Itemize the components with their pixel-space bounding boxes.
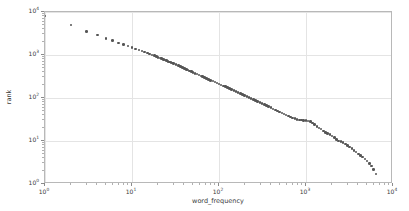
x-tick-label: 100: [39, 189, 49, 195]
y-tick-minor: [42, 41, 44, 42]
y-tick-minor: [42, 142, 44, 143]
y-tick-minor: [42, 28, 44, 29]
y-tick-minor: [42, 64, 44, 65]
plot-area: [44, 11, 392, 183]
x-axis-label: word_frequency: [44, 198, 392, 205]
x-gridline: [219, 12, 220, 182]
y-tick-label: 101: [22, 137, 39, 143]
y-tick-minor: [42, 162, 44, 163]
x-tick-minor: [286, 183, 287, 185]
x-gridline: [45, 12, 46, 182]
x-tick-minor: [199, 183, 200, 185]
x-tick-minor: [297, 183, 298, 185]
x-tick-minor: [244, 183, 245, 185]
x-tick-minor: [192, 183, 193, 185]
x-tick-minor: [118, 183, 119, 185]
x-tick-minor: [357, 183, 358, 185]
y-tick-label: 102: [22, 94, 39, 100]
x-tick-minor: [105, 183, 106, 185]
data-point: [134, 48, 137, 51]
x-tick-minor: [205, 183, 206, 185]
data-point: [122, 43, 125, 46]
y-tick-minor: [42, 58, 44, 59]
y-tick: [41, 54, 44, 55]
y-tick-minor: [42, 18, 44, 19]
x-gridline: [306, 12, 307, 182]
y-tick-minor: [42, 170, 44, 171]
x-tick-minor: [112, 183, 113, 185]
x-tick-minor: [260, 183, 261, 185]
x-tick-minor: [384, 183, 385, 185]
x-tick-minor: [183, 183, 184, 185]
y-gridline: [45, 55, 391, 56]
x-tick-minor: [70, 183, 71, 185]
data-point: [70, 24, 73, 27]
y-tick: [41, 97, 44, 98]
x-tick-minor: [388, 183, 389, 185]
data-point: [372, 168, 375, 171]
x-tick-minor: [366, 183, 367, 185]
y-tick-minor: [42, 67, 44, 68]
x-tick-minor: [373, 183, 374, 185]
x-tick-minor: [86, 183, 87, 185]
x-tick-minor: [96, 183, 97, 185]
y-tick-minor: [42, 104, 44, 105]
x-tick: [44, 183, 45, 186]
x-tick-label: 102: [213, 189, 223, 195]
data-point: [375, 173, 378, 176]
x-tick-minor: [210, 183, 211, 185]
y-tick: [41, 11, 44, 12]
x-tick: [218, 183, 219, 186]
x-tick-minor: [347, 183, 348, 185]
y-tick-minor: [42, 150, 44, 151]
x-tick: [392, 183, 393, 186]
y-tick-minor: [42, 110, 44, 111]
y-tick-minor: [42, 76, 44, 77]
y-tick-minor: [42, 144, 44, 145]
y-tick: [41, 183, 44, 184]
x-tick-minor: [279, 183, 280, 185]
x-tick-label: 103: [300, 189, 310, 195]
data-point: [111, 39, 114, 42]
x-tick: [305, 183, 306, 186]
y-tick-minor: [42, 24, 44, 25]
x-tick: [131, 183, 132, 186]
x-tick-label: 101: [126, 189, 136, 195]
y-tick-minor: [42, 99, 44, 100]
data-point: [85, 30, 88, 33]
y-tick-minor: [42, 114, 44, 115]
x-tick-minor: [173, 183, 174, 185]
x-tick-minor: [157, 183, 158, 185]
y-gridline: [45, 98, 391, 99]
x-tick-minor: [214, 183, 215, 185]
y-tick-minor: [42, 56, 44, 57]
x-tick-minor: [123, 183, 124, 185]
y-tick-minor: [42, 119, 44, 120]
y-tick-minor: [42, 84, 44, 85]
y-tick-label: 103: [22, 51, 39, 57]
x-tick-minor: [127, 183, 128, 185]
y-gridline: [45, 12, 391, 13]
y-tick-minor: [42, 101, 44, 102]
y-tick-minor: [42, 157, 44, 158]
data-point: [127, 45, 130, 48]
y-tick-minor: [42, 147, 44, 148]
chart-figure: word_frequency rank 10010110210310410010…: [0, 0, 409, 211]
y-tick-minor: [42, 13, 44, 14]
y-tick-minor: [42, 71, 44, 72]
data-point: [117, 42, 120, 45]
x-gridline: [132, 12, 133, 182]
y-tick-minor: [42, 127, 44, 128]
y-tick-minor: [42, 61, 44, 62]
data-point: [96, 34, 99, 37]
y-axis-label: rank: [6, 90, 13, 105]
y-tick-minor: [42, 33, 44, 34]
y-tick-label: 104: [22, 8, 39, 14]
data-point: [138, 49, 141, 52]
x-tick-minor: [292, 183, 293, 185]
data-point: [131, 46, 134, 49]
y-tick: [41, 140, 44, 141]
y-tick-minor: [42, 21, 44, 22]
x-tick-minor: [301, 183, 302, 185]
x-tick-minor: [270, 183, 271, 185]
